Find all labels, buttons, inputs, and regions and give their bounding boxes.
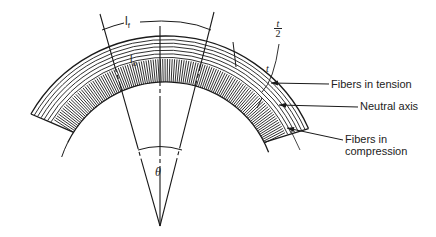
callout-neutral-axis: Neutral axis [360, 100, 418, 112]
curved-beam [31, 36, 309, 157]
label-lo: lo [130, 53, 137, 70]
callout-fibers-tension: Fibers in tension [331, 78, 412, 90]
label-theta: θ [155, 166, 161, 178]
callout-fibers-compression: Fibers in compression [345, 133, 407, 157]
beam-bending-diagram [0, 0, 436, 237]
label-lf: lf [125, 15, 130, 32]
label-t: t [266, 63, 269, 75]
label-t-half: t 2 [274, 19, 282, 38]
